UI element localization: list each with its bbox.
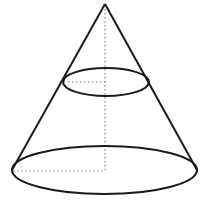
cone-diagram	[0, 0, 200, 204]
cone-right-slant-edge	[105, 4, 197, 170]
cone-left-slant-edge	[12, 4, 105, 170]
cone-figure	[0, 0, 200, 204]
